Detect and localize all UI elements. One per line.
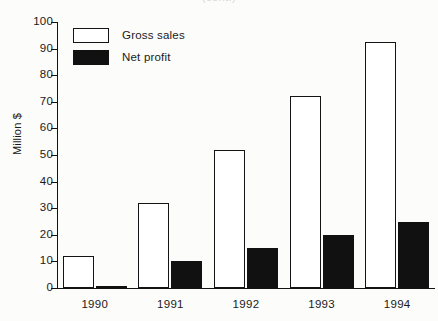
chart-title: (cont.)	[0, 0, 438, 3]
y-tick-label: 60	[40, 121, 53, 133]
legend-swatch-icon	[73, 50, 109, 65]
bar-gross-sales-1993	[290, 96, 321, 288]
y-tick-label: 20	[40, 228, 53, 240]
x-tick-label-1992: 1992	[216, 298, 276, 310]
y-tick-label: 10	[40, 254, 53, 266]
bar-gross-sales-1991	[138, 203, 169, 288]
bar-net-profit-1994	[398, 222, 429, 289]
x-tick-label-1991: 1991	[140, 298, 200, 310]
chart-legend: Gross salesNet profit	[73, 24, 185, 68]
y-tick-label: 80	[40, 68, 53, 80]
bar-gross-sales-1990	[63, 256, 94, 288]
bar-gross-sales-1994	[365, 42, 396, 288]
bar-net-profit-1992	[247, 248, 278, 288]
y-axis-label: Million $	[11, 89, 23, 179]
y-tick-label: 0	[46, 281, 53, 293]
plot-area: 0102030405060708090100 19901991199219931…	[57, 22, 435, 288]
chart-figure: (cont.) Million $ 0102030405060708090100…	[0, 0, 438, 321]
legend-swatch-icon	[73, 28, 109, 43]
x-tick-label-1993: 1993	[292, 298, 352, 310]
y-tick-label: 100	[33, 15, 53, 27]
bar-net-profit-1993	[323, 235, 354, 288]
y-tick-label: 30	[40, 201, 53, 213]
bar-net-profit-1991	[171, 261, 202, 288]
legend-item-net-profit[interactable]: Net profit	[73, 46, 185, 68]
x-axis-spine	[57, 288, 435, 289]
bar-net-profit-1990	[96, 286, 127, 288]
y-axis-spine	[57, 22, 58, 289]
legend-item-gross-sales[interactable]: Gross sales	[73, 24, 185, 46]
y-tick-label: 70	[40, 95, 53, 107]
y-tick-label: 50	[40, 148, 53, 160]
y-tick-label: 90	[40, 42, 53, 54]
bar-gross-sales-1992	[214, 150, 245, 288]
legend-label: Gross sales	[122, 29, 185, 41]
legend-label: Net profit	[122, 51, 171, 63]
x-tick-label-1990: 1990	[65, 298, 125, 310]
x-tick-label-1994: 1994	[367, 298, 427, 310]
y-tick-label: 40	[40, 175, 53, 187]
